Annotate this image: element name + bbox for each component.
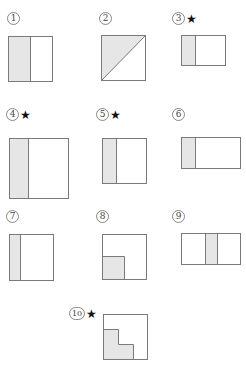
figure-2-label: 2 xyxy=(99,12,112,25)
figure-6-label: 6 xyxy=(172,108,185,121)
circled-number: 1 xyxy=(7,12,20,25)
figure-1-label: 1 xyxy=(7,12,20,25)
figure-9-wide-rectangle-middle-shaded xyxy=(181,233,241,265)
star-icon: ★ xyxy=(186,12,197,26)
star-icon: ★ xyxy=(110,108,121,122)
circled-number: 7 xyxy=(6,210,19,223)
star-icon: ★ xyxy=(20,108,31,122)
figure-8-square-corner-shaded xyxy=(102,234,147,280)
figure-10-square-staircase-shaded xyxy=(103,314,148,360)
circled-number: 6 xyxy=(172,108,185,121)
circled-number: 8 xyxy=(96,210,109,223)
figure-4-large-square-third-shaded xyxy=(9,138,69,199)
figure-3-label: 3★ xyxy=(172,12,197,25)
figure-5-label: 5★ xyxy=(96,108,121,121)
figure-7-label: 7 xyxy=(6,210,19,223)
figure-4-label: 4★ xyxy=(6,108,31,121)
circled-number: 2 xyxy=(99,12,112,25)
figure-3-rectangle-third-shaded xyxy=(181,35,226,66)
circled-number: 5 xyxy=(96,108,109,121)
figure-6-wide-rectangle-quarter-shaded xyxy=(181,137,241,169)
figure-8-label: 8 xyxy=(96,210,109,223)
circled-number: 10 xyxy=(69,307,85,320)
circled-number: 3 xyxy=(172,12,185,25)
figure-7-square-quarter-shaded xyxy=(9,234,54,281)
star-icon: ★ xyxy=(86,307,97,321)
figure-5-square-third-shaded xyxy=(102,138,147,184)
figure-10-label: 10★ xyxy=(69,307,97,320)
circled-number: 4 xyxy=(6,108,19,121)
circled-number: 9 xyxy=(172,210,185,223)
figure-2-square-diagonal xyxy=(101,35,146,81)
figure-9-label: 9 xyxy=(172,210,185,223)
figure-1-square-half-shaded xyxy=(8,36,53,82)
